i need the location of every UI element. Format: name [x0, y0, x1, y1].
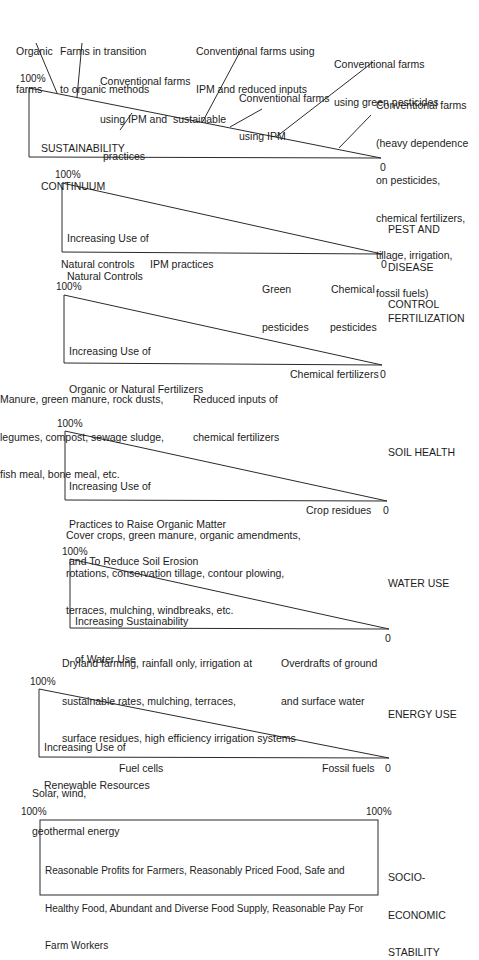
scale-line: chemical fertilizers [193, 431, 279, 444]
inner-line: Reasonable Profits for Farmers, Reasonab… [45, 865, 363, 878]
inner-line: Increasing Use of [69, 345, 203, 358]
callout-line: Conventional farms [334, 58, 438, 71]
fertilization-scale-chemical: Chemical fertilizers [290, 368, 379, 381]
callout-line: Conventional farms [376, 99, 468, 112]
category-line: PEST AND [388, 223, 440, 236]
continuum-max-label: 100% [20, 73, 46, 86]
title-line: CONTINUUM [41, 180, 125, 193]
callout-line: (heavy dependence [376, 137, 468, 150]
inner-line: Increasing Use of [69, 480, 226, 493]
soil-scale-crop-residues: Crop residues [306, 504, 371, 517]
energy-min-label: 0 [385, 762, 391, 775]
callout-line: Organic [16, 45, 53, 58]
scale-line: Manure, green manure, rock dusts, [0, 393, 164, 406]
energy-category: ENERGY USE [388, 708, 457, 721]
pest-scale-natural: Natural controls [61, 258, 135, 271]
socio-category: SOCIO- ECONOMIC STABILITY [388, 846, 446, 960]
category-line: STABILITY [388, 946, 446, 959]
category-line: ECONOMIC [388, 909, 446, 922]
continuum-min-label: 0 [380, 161, 386, 174]
pest-min-label: 0 [381, 258, 387, 271]
category-line: DISEASE [388, 261, 440, 274]
soil-min-label: 0 [383, 504, 389, 517]
water-scale-overdrafts: Overdrafts of ground and surface water [281, 632, 377, 720]
water-min-label: 0 [385, 632, 391, 645]
inner-line: Farm Workers [45, 940, 363, 953]
pest-category: PEST AND DISEASE CONTROL [388, 198, 440, 323]
socio-right-label: 100% [366, 806, 392, 819]
inner-line: Increasing Use of [44, 741, 150, 754]
callout-line: on pesticides, [376, 174, 468, 187]
callout-line: using IPM [239, 130, 329, 143]
continuum-callout-organic: Organic farms [16, 20, 53, 108]
scale-line: Green [262, 283, 309, 296]
soil-category: SOIL HEALTH [388, 446, 455, 459]
energy-scale-fuel-cells: Fuel cells [119, 762, 163, 775]
fertilization-scale-reduced: Reduced inputs of chemical fertilizers [193, 368, 279, 456]
scale-line: Reduced inputs of [193, 393, 279, 406]
category-line: SOCIO- [388, 871, 446, 884]
inner-line: Healthy Food, Abundant and Diverse Food … [45, 903, 363, 916]
continuum-callout-ipm: Conventional farms using IPM [239, 67, 329, 155]
fertilization-max-label: 100% [56, 281, 82, 294]
fertilization-category: FERTILIZATION [388, 312, 465, 325]
pest-scale-green: Green pesticides [262, 258, 309, 346]
fertilization-min-label: 0 [380, 368, 386, 381]
soil-max-label: 100% [57, 418, 83, 431]
scale-line: sustainable rates, mulching, terraces, [62, 695, 296, 708]
scale-line: Overdrafts of ground [281, 657, 377, 670]
socio-left-label: 100% [21, 806, 47, 819]
pest-max-label: 100% [55, 169, 81, 182]
continuum-title: SUSTAINABILITY CONTINUUM [41, 117, 125, 205]
title-line: SUSTAINABILITY [41, 142, 125, 155]
energy-max-label: 100% [30, 676, 56, 689]
inner-line: Increasing Sustainability [75, 615, 188, 628]
scale-line: Solar, wind, [32, 787, 120, 800]
scale-line: Cover crops, green manure, organic amend… [66, 529, 301, 542]
water-category: WATER USE [388, 577, 449, 590]
inner-line: Increasing Use of [67, 232, 149, 245]
scale-line: pesticides [262, 321, 309, 334]
water-max-label: 100% [62, 546, 88, 559]
pest-scale-ipm: IPM practices [150, 258, 214, 271]
scale-line: Dryland farming, rainfall only, irrigati… [62, 657, 296, 670]
scale-line: rotations, conservation tillage, contour… [66, 567, 301, 580]
scale-line: Chemical [330, 283, 377, 296]
scale-line: pesticides [330, 321, 377, 334]
scale-line: and surface water [281, 695, 377, 708]
callout-line: Conventional farms using [196, 45, 314, 58]
pest-scale-chemical: Chemical pesticides [330, 258, 377, 346]
socio-inner-label: Reasonable Profits for Farmers, Reasonab… [45, 840, 363, 960]
scale-line: legumes, compost, sewage sludge, [0, 431, 164, 444]
callout-line: Conventional farms [239, 92, 329, 105]
scale-line: geothermal energy [32, 825, 120, 838]
energy-scale-fossil: Fossil fuels [322, 762, 375, 775]
category-line: CONTROL [388, 298, 440, 311]
